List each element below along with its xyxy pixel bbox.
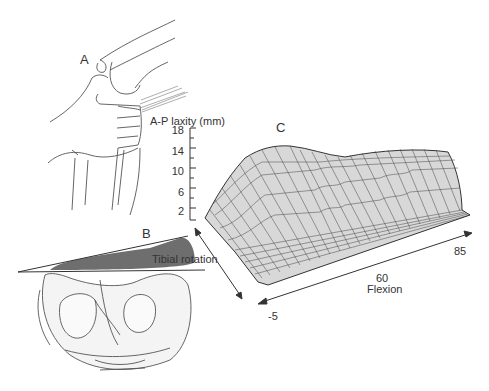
tibial-rotation-label: Tibial rotation: [152, 253, 218, 265]
tibial-plateau-illustration: [0, 0, 489, 391]
